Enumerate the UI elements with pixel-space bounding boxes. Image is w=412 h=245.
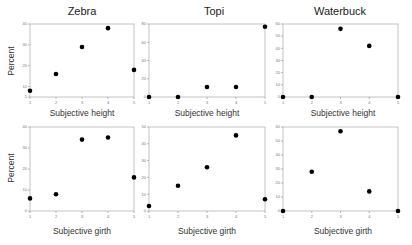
y-tick-label: 0 [144,208,147,213]
data-point [106,26,111,31]
data-point [396,95,401,100]
y-tick-label: 0 [278,94,281,99]
y-tick-label: 40 [276,46,281,51]
panel-title-zebra: Zebra [68,5,98,17]
x-tick-label: 2 [55,214,58,219]
y-tick-label: 20 [142,76,147,81]
y-tick-label: 20 [23,63,28,68]
x-tick-label: 1 [282,214,285,219]
data-point [176,95,181,100]
data-point [338,129,343,134]
x-tick-label: 5 [133,214,136,219]
x-tick-label: 2 [311,100,314,105]
plot-frame [30,24,134,97]
data-point [234,85,239,90]
data-point [205,165,210,170]
x-tick-label: 5 [397,100,400,105]
y-tick-label: 60 [276,124,281,129]
x-tick-label: 1 [148,214,151,219]
plot-frame [283,24,398,97]
y-tick-label: 10 [142,192,147,197]
x-tick-label: 4 [368,100,371,105]
xlabel-zebra-height: Subjective height [50,108,115,118]
y-tick-label: 0 [25,208,28,213]
data-point [147,95,152,100]
x-tick-label: 3 [339,100,342,105]
y-tick-label: 5 [25,94,28,99]
ylabel-top: Percent [6,46,16,76]
x-tick-label: 1 [29,214,32,219]
y-tick-label: 10 [23,84,28,89]
x-tick-label: 4 [235,100,238,105]
x-tick-label: 3 [81,214,84,219]
x-tick-label: 4 [235,214,238,219]
data-point [396,209,401,214]
panel-zebra-height: 51020304012345 [23,21,137,105]
x-tick-label: 4 [368,214,371,219]
x-tick-label: 1 [148,100,151,105]
y-tick-label: 10 [276,194,281,199]
y-tick-label: 80 [142,21,147,26]
xlabel-topi-height: Subjective height [175,108,240,118]
small-multiples-chart: Zebra Topi Waterbuck Percent Percent Sub… [0,0,412,245]
y-tick-label: 50 [276,33,281,38]
ylabel-bottom: Percent [6,153,16,183]
x-tick-label: 1 [282,100,285,105]
panel-title-waterbuck: Waterbuck [314,5,367,17]
data-point [132,175,137,180]
y-tick-label: 10 [23,187,28,192]
y-tick-label: 50 [276,138,281,143]
y-tick-label: 40 [142,58,147,63]
y-tick-label: 40 [23,124,28,129]
y-tick-label: 20 [142,175,147,180]
xlabel-zebra-girth: Subjective girth [53,226,111,236]
data-point [54,72,59,77]
x-tick-label: 5 [133,100,136,105]
data-point [309,95,314,100]
x-tick-label: 4 [107,100,110,105]
data-point [263,24,268,29]
x-tick-label: 3 [206,214,209,219]
data-point [28,196,33,201]
data-point [367,44,372,49]
y-tick-label: 40 [142,141,147,146]
data-point [281,95,286,100]
data-point [281,209,286,214]
y-tick-label: 50 [142,124,147,129]
x-tick-label: 5 [397,214,400,219]
data-point [309,170,314,175]
data-point [132,68,137,73]
x-tick-label: 3 [339,214,342,219]
x-tick-label: 2 [311,214,314,219]
plot-frame [283,127,398,211]
data-point [367,189,372,194]
y-tick-label: 40 [276,152,281,157]
x-tick-label: 2 [55,100,58,105]
y-tick-label: 30 [142,158,147,163]
y-tick-label: 30 [23,145,28,150]
data-point [80,137,85,142]
data-point [28,88,33,93]
x-tick-label: 2 [177,214,180,219]
y-tick-label: 30 [23,42,28,47]
x-tick-label: 5 [264,100,267,105]
y-tick-label: 20 [276,180,281,185]
y-tick-label: 0 [278,208,281,213]
data-point [54,192,59,197]
y-tick-label: 0 [144,94,147,99]
y-tick-label: 60 [276,21,281,26]
panel-topi-height: 02040608012345 [142,21,268,105]
panel-waterbuck-height: 010203040506012345 [276,21,401,105]
y-tick-label: 30 [276,58,281,63]
x-tick-label: 4 [107,214,110,219]
x-tick-label: 2 [177,100,180,105]
panel-title-topi: Topi [204,5,224,17]
y-tick-label: 20 [23,166,28,171]
xlabel-topi-girth: Subjective girth [178,226,236,236]
panel-topi-girth: 0102030405012345 [142,124,268,219]
y-tick-label: 40 [23,21,28,26]
y-tick-label: 30 [276,166,281,171]
data-point [176,184,181,189]
y-tick-label: 20 [276,70,281,75]
xlabel-waterbuck-girth: Subjective girth [314,226,372,236]
